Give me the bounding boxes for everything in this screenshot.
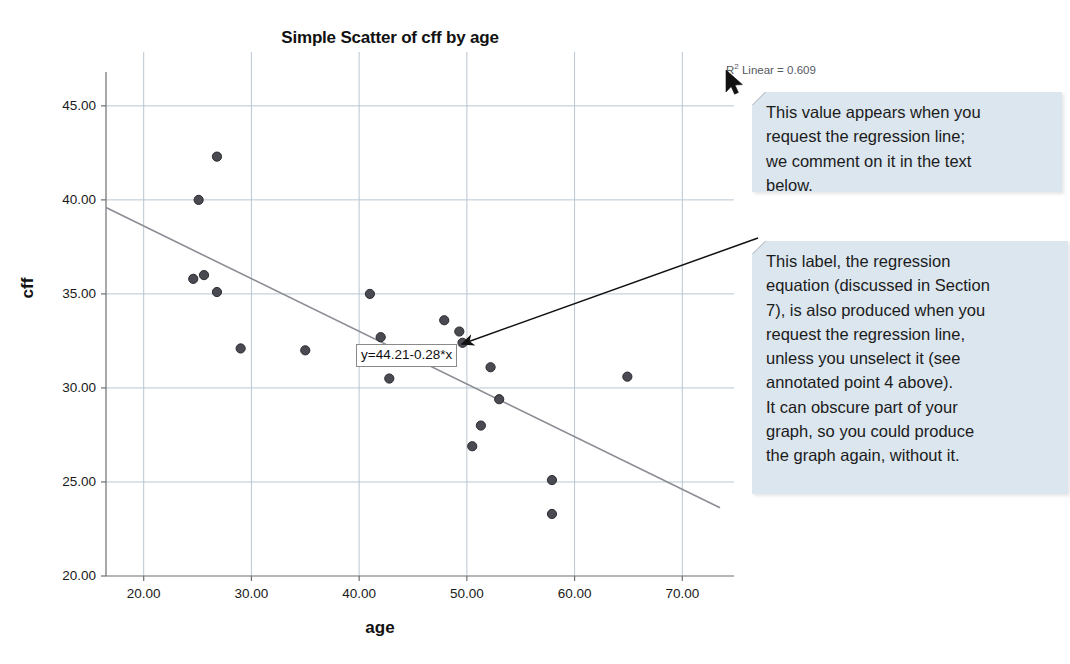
x-tick-label: 70.00 [647, 586, 717, 601]
callout-line: request the regression line; [766, 124, 1052, 148]
scatter-point [212, 152, 221, 161]
scatter-point [476, 421, 485, 430]
scatter-point [486, 363, 495, 372]
data-points [189, 152, 632, 519]
scatter-point [458, 338, 467, 347]
scatter-point [301, 346, 310, 355]
scatter-point [455, 327, 464, 336]
scatter-point [194, 195, 203, 204]
y-tick-label: 20.00 [34, 568, 96, 583]
x-tick-label: 30.00 [216, 586, 286, 601]
gridlines-horizontal [106, 106, 734, 482]
plot-canvas [0, 0, 760, 664]
callout-r-squared: This value appears when yourequest the r… [752, 92, 1062, 192]
scatter-point [236, 344, 245, 353]
y-tick-label: 40.00 [34, 192, 96, 207]
scatter-point [547, 475, 556, 484]
y-tick-label: 45.00 [34, 98, 96, 113]
axis-lines [106, 72, 734, 576]
chart-figure: Simple Scatter of cff by age cff age 20.… [0, 0, 760, 664]
callout-line: unless you unselect it (see [766, 346, 1058, 370]
callout-r-squared-text: This value appears when yourequest the r… [766, 100, 1052, 197]
callout-equation: This label, the regressionequation (disc… [752, 241, 1068, 494]
x-tick-label: 40.00 [324, 586, 394, 601]
scatter-point [495, 395, 504, 404]
callout-line: 7), is also produced when you [766, 298, 1058, 322]
callout-line: graph, so you could produce [766, 419, 1058, 443]
r-squared-suffix: Linear = 0.609 [739, 64, 816, 76]
x-tick-label: 50.00 [432, 586, 502, 601]
callout-equation-text: This label, the regressionequation (disc… [766, 249, 1058, 467]
regression-equation-label: y=44.21-0.28*x [356, 344, 457, 367]
y-tick-label: 35.00 [34, 286, 96, 301]
callout-line: request the regression line, [766, 322, 1058, 346]
callout-line: we comment on it in the text [766, 149, 1052, 173]
x-tick-label: 20.00 [109, 586, 179, 601]
scatter-point [189, 274, 198, 283]
scatter-point [365, 289, 374, 298]
scatterplot-annotated-figure: Simple Scatter of cff by age cff age 20.… [0, 0, 1070, 664]
y-tick-label: 30.00 [34, 380, 96, 395]
callout-line: annotated point 4 above). [766, 370, 1058, 394]
scatter-point [376, 333, 385, 342]
callout-line: the graph again, without it. [766, 443, 1058, 467]
callout-line: below. [766, 173, 1052, 197]
r-squared-label: R2 Linear = 0.609 [726, 62, 816, 76]
y-tick-label: 25.00 [34, 474, 96, 489]
gridlines-vertical [144, 52, 683, 576]
scatter-point [623, 372, 632, 381]
scatter-point [547, 509, 556, 518]
callout-line: This label, the regression [766, 249, 1058, 273]
scatter-point [468, 442, 477, 451]
scatter-point [385, 374, 394, 383]
callout-line: This value appears when you [766, 100, 1052, 124]
x-tick-label: 60.00 [540, 586, 610, 601]
callout-line: equation (discussed in Section [766, 273, 1058, 297]
callout-line: It can obscure part of your [766, 395, 1058, 419]
scatter-point [212, 287, 221, 296]
scatter-point [199, 271, 208, 280]
scatter-point [440, 316, 449, 325]
